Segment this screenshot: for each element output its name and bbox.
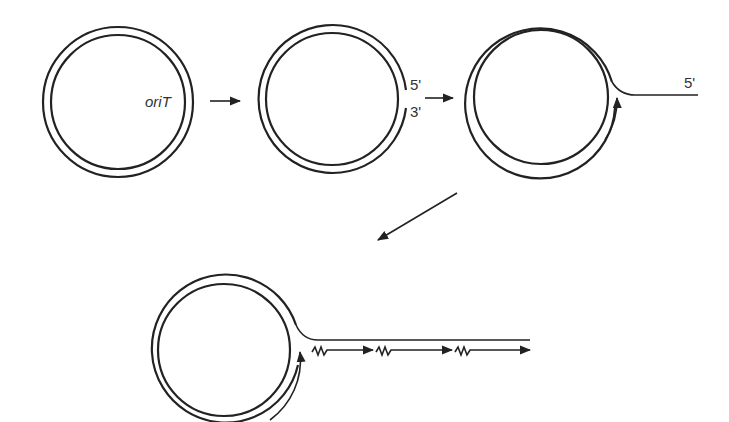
primer-zigzag-icon (376, 347, 452, 355)
five-prime-label: 5' (684, 74, 695, 91)
stage-plasmid: oriT (43, 27, 193, 177)
primer-zigzag-icon (312, 347, 373, 355)
okazaki-fragment (312, 347, 373, 355)
outer-strand-ring (152, 275, 298, 422)
stage-nicked: 5' 3' (259, 25, 422, 173)
inner-strand (266, 33, 398, 165)
three-prime-label: 3' (410, 103, 421, 120)
okazaki-fragment (376, 347, 452, 355)
primer-zigzag-icon (455, 347, 530, 355)
replication-arrow-icon (270, 352, 300, 420)
five-prime-label: 5' (410, 76, 421, 93)
stage-displacement: 5' (465, 28, 698, 178)
okazaki-fragment (455, 347, 530, 355)
oriT-label: oriT (145, 93, 173, 110)
outer-strand-ring (465, 28, 615, 178)
transferred-single-strand (296, 325, 530, 340)
conjugation-diagram: oriT 5' 3' 5' (0, 0, 729, 422)
inner-strand (158, 284, 290, 416)
arrow-icon (378, 193, 457, 240)
inner-strand (474, 30, 608, 164)
stage-transfer-replication (152, 275, 530, 422)
nicked-outer-strand (259, 25, 406, 173)
